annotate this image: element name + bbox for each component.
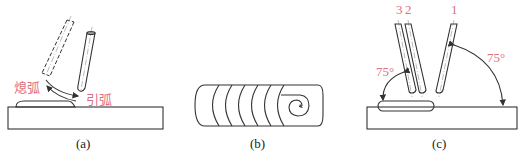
- caption-c: (c): [432, 136, 446, 151]
- bead-outline-b: [195, 85, 323, 126]
- weld-bead-c: [378, 101, 434, 111]
- weld-bead-a: [16, 101, 75, 107]
- panel-c: 3 2 1 75° 75° (c): [367, 2, 517, 151]
- panel-b: (b): [195, 85, 323, 151]
- label-extinguish-arc: 熄弧: [14, 80, 40, 95]
- ripple-arcs-b: [213, 85, 285, 126]
- caption-b: (b): [250, 136, 265, 151]
- caption-a: (a): [76, 136, 90, 151]
- crater-spiral-b: [281, 95, 309, 116]
- label-electrode-3: 3: [396, 2, 403, 17]
- base-plate-c: [367, 107, 517, 129]
- label-electrode-2: 2: [405, 2, 412, 17]
- electrode-solid-a: [78, 27, 95, 91]
- label-angle-left: 75°: [376, 64, 394, 79]
- welding-arc-diagram: 熄弧 引弧 (a) (b): [0, 0, 524, 162]
- arc-arrow-outer: [46, 80, 78, 96]
- base-plate-a: [8, 107, 163, 129]
- panel-a: 熄弧 引弧 (a): [8, 16, 163, 151]
- electrode-1-c: [436, 20, 457, 97]
- label-strike-arc: 引弧: [86, 92, 112, 107]
- arc-arrow-inner: [47, 86, 76, 101]
- label-angle-right: 75°: [487, 50, 505, 65]
- electrode-dashed-a: [42, 16, 74, 76]
- label-electrode-1: 1: [451, 2, 458, 17]
